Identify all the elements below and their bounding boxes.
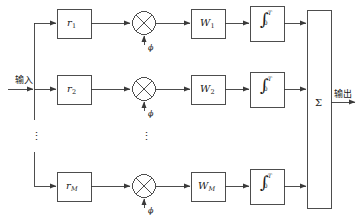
ellipsis-left: ⋮ — [31, 131, 42, 142]
integral-lower-2: 0 — [264, 86, 268, 92]
delay-sub-2: 2 — [72, 88, 76, 96]
delay-label-M: rM — [66, 181, 78, 193]
integrator-label-1: ∫ T 0 — [260, 11, 273, 28]
weight-sub-2: 2 — [210, 88, 214, 96]
weight-base-1: W — [200, 17, 210, 28]
mixer-lo-label-1: ϕ — [148, 44, 153, 52]
ellipsis-middle: ⋮ — [141, 131, 152, 142]
delay-sub-1: 1 — [72, 22, 76, 30]
output-label: 输出 — [334, 90, 352, 99]
input-label: 输入 — [15, 76, 33, 85]
weight-sub-1: 1 — [210, 22, 214, 30]
weight-label-M: WM — [198, 181, 215, 193]
mixer-lo-label-2: ϕ — [148, 110, 153, 118]
delay-label-2: r2 — [67, 84, 76, 96]
block-diagram-canvas: 输入 输出 Σ r1 ϕ W1 ∫ T 0 r2 ϕ W2 ∫ T 0 rM ϕ… — [0, 0, 361, 216]
delay-sub-M: M — [71, 185, 78, 193]
integral-lower-M: 0 — [264, 183, 268, 189]
weight-sub-M: M — [208, 185, 215, 193]
integral-upper-M: T — [268, 173, 272, 179]
integrator-label-2: ∫ T 0 — [260, 77, 273, 94]
integral-upper-1: T — [268, 10, 272, 16]
delay-label-1: r1 — [67, 18, 76, 30]
weight-base-M: W — [198, 180, 208, 191]
summing-symbol: Σ — [315, 98, 322, 108]
weight-label-1: W1 — [200, 18, 215, 30]
summing-block-rect — [307, 10, 331, 208]
weight-label-2: W2 — [200, 84, 215, 96]
diagram-vector-layer — [0, 0, 361, 216]
integral-upper-2: T — [268, 76, 272, 82]
weight-base-2: W — [200, 83, 210, 94]
mixer-lo-label-M: ϕ — [148, 207, 153, 215]
integral-lower-1: 0 — [264, 20, 268, 26]
integrator-label-M: ∫ T 0 — [260, 174, 273, 191]
